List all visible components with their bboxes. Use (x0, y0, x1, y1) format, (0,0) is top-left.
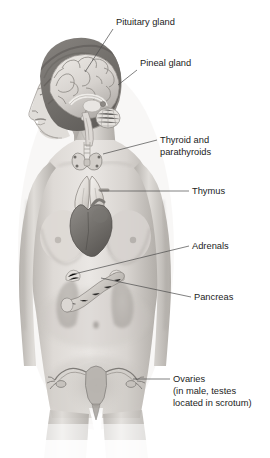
label-thymus: Thymus (192, 186, 225, 196)
label-line: Pancreas (194, 292, 234, 302)
label-pineal-gland: Pineal gland (140, 58, 191, 68)
label-pituitary-gland: Pituitary gland (116, 17, 175, 27)
label-adrenals: Adrenals (192, 241, 229, 251)
pineal-gland-organ (100, 101, 105, 106)
label-ovaries: Ovaries (in male, testes located in scro… (173, 374, 252, 408)
label-line: Thyroid and (160, 135, 209, 145)
label-line: Thymus (192, 186, 225, 196)
ovary-left (126, 381, 136, 388)
label-line: located in scrotum) (173, 398, 252, 408)
label-line: Pineal gland (140, 58, 191, 68)
label-pancreas: Pancreas (194, 292, 234, 302)
label-line: parathyroids (160, 147, 212, 157)
label-line: Pituitary gland (116, 17, 175, 27)
legs (0, 408, 270, 458)
cerebellum (96, 108, 120, 128)
label-line: Adrenals (192, 241, 229, 251)
label-line: Ovaries (173, 374, 205, 384)
label-thyroid-and-parathyroids: Thyroid and parathyroids (160, 135, 212, 157)
label-line: (in male, testes (173, 386, 236, 396)
diagram-canvas: Pituitary gland Pineal gland Thyroid and… (0, 0, 270, 458)
navel (93, 322, 98, 329)
ovary-right (56, 381, 66, 388)
endocrine-system-diagram: Pituitary gland Pineal gland Thyroid and… (0, 0, 270, 458)
